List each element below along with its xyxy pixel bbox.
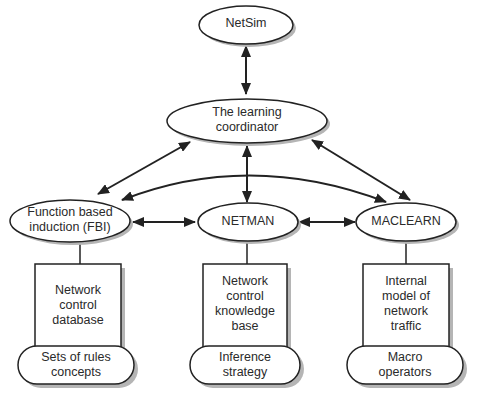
box-network-control-knowledge-base: [203, 264, 287, 349]
node-netsim: [199, 6, 293, 44]
base-sets-of-rules: [18, 346, 134, 384]
node-netman: [198, 203, 298, 241]
edge-coordinator-maclearn: [312, 140, 410, 200]
connectors: [80, 241, 406, 264]
node-learning-coordinator: [167, 99, 327, 143]
edge-fbi-maclearn-curved: [122, 175, 386, 202]
node-fbi: [10, 200, 130, 242]
box-internal-model: [363, 264, 449, 349]
base-inference-strategy: [190, 346, 300, 384]
box-network-control-database: [35, 264, 121, 349]
edge-coordinator-fbi: [98, 142, 190, 194]
node-maclearn: [356, 203, 456, 241]
diagram-canvas: [0, 0, 480, 403]
base-macro-operators: [347, 346, 463, 384]
